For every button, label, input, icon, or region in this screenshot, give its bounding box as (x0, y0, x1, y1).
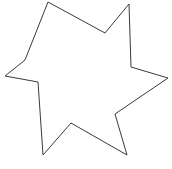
drawing-canvas (0, 0, 172, 169)
star-drawing (0, 0, 172, 169)
